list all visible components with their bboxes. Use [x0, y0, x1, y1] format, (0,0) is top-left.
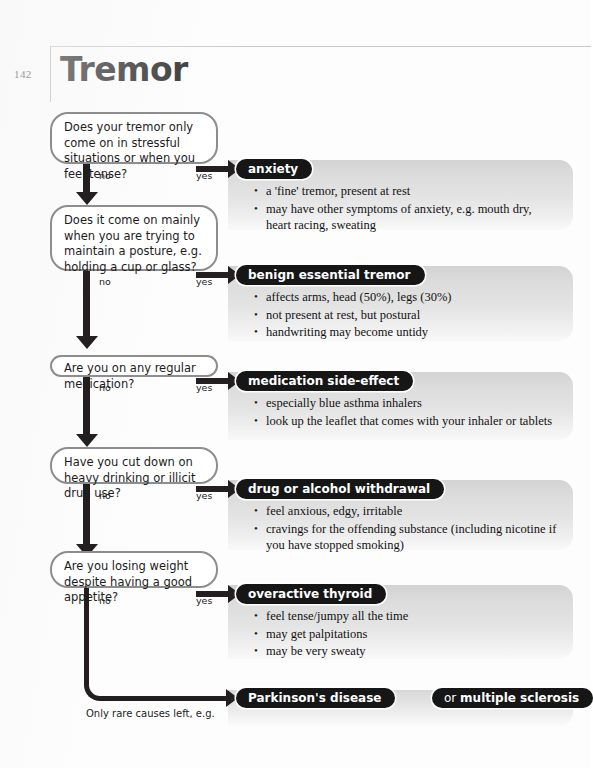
branch-label-no-4: no	[99, 490, 111, 501]
question-box-5[interactable]: Are you losing weight despite having a g…	[50, 551, 218, 588]
list-item: affects arms, head (50%), legs (30%)	[254, 289, 559, 306]
list-item: feel tense/jumpy all the time	[254, 608, 559, 625]
list-item: look up the leaflet that comes with your…	[254, 413, 559, 430]
outcome-tag-anxiety[interactable]: anxiety	[236, 159, 312, 179]
connector-no-2	[83, 270, 90, 338]
question-box-4[interactable]: Have you cut down on heavy drinking or i…	[50, 447, 218, 484]
outcome-bullets-overactive-thyroid: feel tense/jumpy all the time may get pa…	[254, 608, 559, 661]
final-tag-parkinsons-disease[interactable]: Parkinson's disease	[236, 688, 395, 708]
list-item: handwriting may become untidy	[254, 324, 559, 341]
branch-label-yes-2: yes	[196, 276, 212, 287]
final-tag-label: multiple sclerosis	[460, 691, 579, 705]
branch-label-no-2: no	[99, 276, 111, 287]
branch-label-yes-1: yes	[196, 170, 212, 181]
outcome-tag-medication-side-effect[interactable]: medication side-effect	[236, 371, 413, 391]
connector-no-arrowhead-1	[76, 192, 98, 205]
outcome-tag-benign-essential-tremor[interactable]: benign essential tremor	[236, 265, 425, 285]
outcome-bullets-drug-or-alcohol-withdrawal: feel anxious, edgy, irritable cravings f…	[254, 503, 559, 555]
list-item: feel anxious, edgy, irritable	[254, 503, 559, 520]
connector-final-line	[112, 696, 230, 701]
list-item: may get palpitations	[254, 626, 559, 643]
final-tag-prefix: or	[444, 691, 460, 705]
rare-causes-note: Only rare causes left, e.g.	[86, 708, 215, 719]
question-text-3: Are you on any regular medication?	[64, 361, 196, 391]
question-text-2: Does it come on mainly when you are tryi…	[64, 213, 202, 274]
list-item: may be very sweaty	[254, 643, 559, 660]
outcome-tag-drug-or-alcohol-withdrawal[interactable]: drug or alcohol withdrawal	[236, 479, 444, 499]
question-text-5: Are you losing weight despite having a g…	[64, 559, 192, 604]
question-box-3[interactable]: Are you on any regular medication?	[50, 355, 218, 377]
connector-no-arrowhead-3	[76, 434, 98, 447]
outcome-bullets-anxiety: a 'fine' tremor, present at rest may hav…	[254, 183, 559, 235]
branch-label-no-5: no	[99, 595, 111, 606]
list-item: not present at rest, but postural	[254, 307, 559, 324]
list-item: cravings for the offending substance (in…	[254, 521, 559, 554]
outcome-bullets-benign-essential-tremor: affects arms, head (50%), legs (30%) not…	[254, 289, 559, 342]
branch-label-yes-4: yes	[196, 490, 212, 501]
branch-label-no-3: no	[99, 382, 111, 393]
branch-label-yes-3: yes	[196, 382, 212, 393]
question-text-4: Have you cut down on heavy drinking or i…	[64, 455, 196, 500]
question-box-1[interactable]: Does your tremor only come on in stressf…	[50, 112, 218, 164]
list-item: a 'fine' tremor, present at rest	[254, 183, 559, 200]
connector-no-arrowhead-2	[76, 336, 98, 349]
outcome-tag-overactive-thyroid[interactable]: overactive thyroid	[236, 584, 386, 604]
list-item: may have other symptoms of anxiety, e.g.…	[254, 201, 559, 234]
branch-label-yes-5: yes	[196, 595, 212, 606]
question-box-2[interactable]: Does it come on mainly when you are tryi…	[50, 205, 218, 271]
outcome-bullets-medication-side-effect: especially blue asthma inhalers look up …	[254, 395, 559, 430]
list-item: especially blue asthma inhalers	[254, 395, 559, 412]
question-text-1: Does your tremor only come on in stressf…	[64, 120, 195, 181]
branch-label-no-1: no	[99, 170, 111, 181]
final-tag-multiple-sclerosis[interactable]: or multiple sclerosis	[432, 688, 593, 708]
